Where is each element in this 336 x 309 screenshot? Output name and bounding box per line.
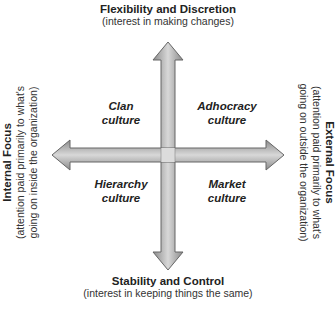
quadrant-label-line2: culture [182,113,272,127]
quadrant-label-line2: culture [76,113,166,127]
right-axis-subtitle-line1: (attention paid primarily to what's [310,48,323,278]
quadrant-hierarchy-culture: Hierarchy culture [76,177,166,205]
left-axis-subtitle-line1: (attention paid primarily to what's [14,48,27,278]
quadrant-label-line1: Clan [76,99,166,113]
quadrant-label-line2: culture [182,191,272,205]
left-axis-subtitle-line2: going on inside the organization) [27,48,40,278]
quadrant-label-line1: Adhocracy [182,99,272,113]
bottom-axis-title: Stability and Control [0,275,336,287]
left-axis-title: Internal Focus [1,48,14,278]
quadrant-label-line1: Hierarchy [76,177,166,191]
axes-arrows [0,0,336,309]
right-axis-title: External Focus [323,48,336,278]
bottom-axis-label: Stability and Control (interest in keepi… [0,275,336,299]
bottom-axis-subtitle: (interest in keeping things the same) [0,287,336,299]
top-axis-subtitle: (interest in making changes) [0,15,336,27]
quadrant-label-line1: Market [182,177,272,191]
top-axis-title: Flexibility and Discretion [0,3,336,15]
quadrant-label-line2: culture [76,191,166,205]
top-axis-label: Flexibility and Discretion (interest in … [0,3,336,27]
quadrant-clan-culture: Clan culture [76,99,166,127]
quadrant-market-culture: Market culture [182,177,272,205]
right-axis-subtitle-line2: going on outside the organization) [297,48,310,278]
left-axis-label: Internal Focus (attention paid primarily… [1,48,40,278]
right-axis-label: External Focus (attention paid primarily… [297,48,336,278]
quadrant-adhocracy-culture: Adhocracy culture [182,99,272,127]
